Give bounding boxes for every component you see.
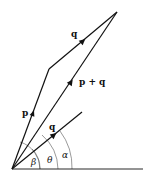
label-beta: β: [30, 157, 36, 167]
label-q-top: q: [71, 29, 78, 39]
arrow-p-icon: [30, 109, 37, 116]
label-p: p: [22, 108, 28, 118]
label-p-plus-q: p + q: [79, 77, 106, 87]
label-theta: θ: [47, 155, 53, 165]
vector-diagram: p q p + q q β θ α: [0, 0, 150, 181]
label-q-bottom: q: [49, 122, 56, 132]
vector-p-plus-q: [12, 12, 117, 169]
label-alpha: α: [62, 150, 68, 160]
